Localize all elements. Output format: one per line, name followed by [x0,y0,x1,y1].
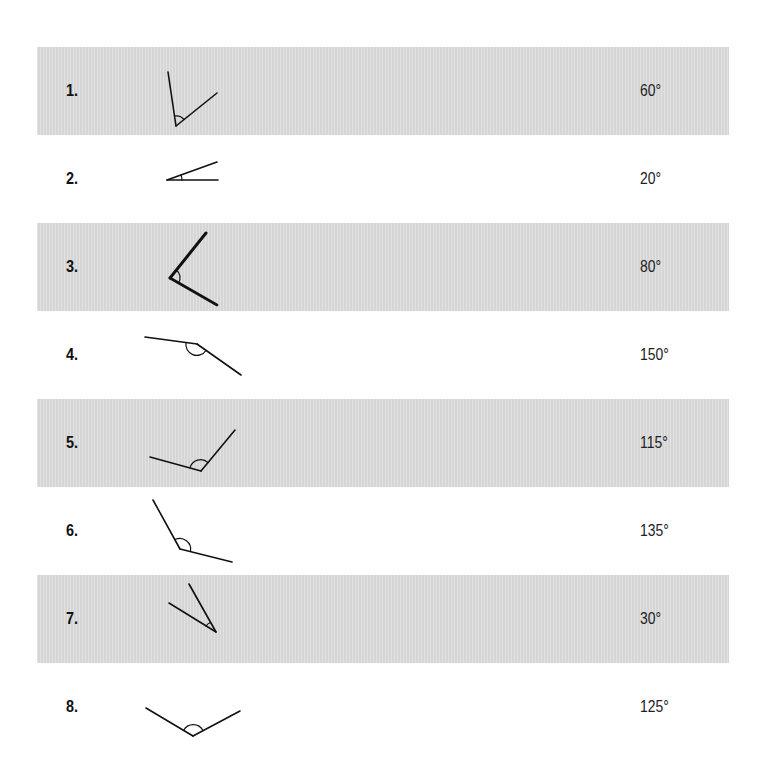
angle-value: 135° [640,521,681,541]
row-number: 7. [66,609,78,629]
row-number: 3. [66,257,78,277]
angle-value: 20° [640,169,681,189]
angle-value: 150° [640,345,681,365]
row-number: 4. [66,345,78,365]
angle-value: 125° [640,697,681,717]
angle-row-8: 8. 125° [37,663,729,751]
angle-value: 60° [640,81,681,101]
row-number: 6. [66,521,78,541]
row-number: 8. [66,697,78,717]
angle-row-6: 6. 135° [37,487,729,575]
angle-row-4: 4. 150° [37,311,729,399]
angle-value: 80° [640,257,681,277]
angle-row-7: 7. 30° [37,575,729,663]
row-number: 1. [66,81,78,101]
row-number: 2. [66,169,78,189]
angle-row-2: 2. 20° [37,135,729,223]
row-number: 5. [66,433,78,453]
angle-row-3: 3. 80° [37,223,729,311]
angle-row-1: 1. 60° [37,47,729,135]
angle-value: 115° [640,433,681,453]
angle-value: 30° [640,609,681,629]
angle-row-5: 5. 115° [37,399,729,487]
